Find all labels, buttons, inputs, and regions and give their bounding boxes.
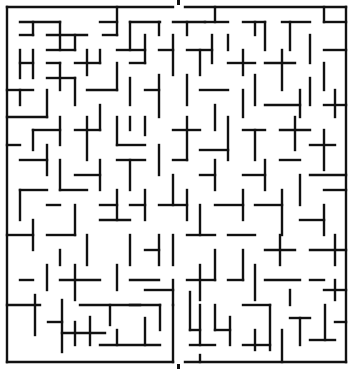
maze-walls	[0, 0, 353, 369]
exit-marker-icon	[177, 364, 180, 369]
entrance-marker-icon	[177, 0, 180, 5]
